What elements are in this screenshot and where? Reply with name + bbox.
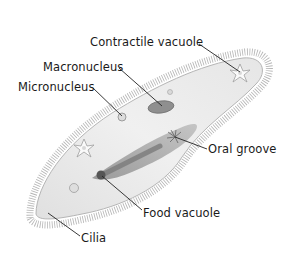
- label-micronucleus: Micronucleus: [18, 81, 95, 93]
- label-oral-groove: Oral groove: [208, 143, 277, 155]
- micronucleus-shape: [118, 113, 126, 121]
- label-contractile-vacuole: Contractile vacuole: [90, 36, 203, 48]
- label-macronucleus: Macronucleus: [43, 61, 123, 73]
- label-food-vacuole: Food vacuole: [143, 207, 220, 219]
- food-vacuole-small-2: [168, 90, 173, 95]
- label-cilia: Cilia: [81, 232, 106, 244]
- food-vacuole-small: [70, 184, 79, 193]
